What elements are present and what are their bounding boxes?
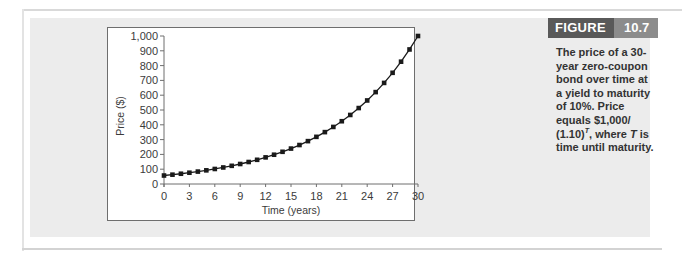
data-point: [204, 168, 209, 173]
y-tick-label: 800: [140, 60, 158, 72]
data-point: [297, 143, 302, 148]
figure-number: 10.7: [614, 18, 658, 38]
series-line-bond-price: [164, 36, 418, 176]
x-tick-label: 21: [336, 190, 348, 202]
data-point: [272, 152, 277, 157]
y-tick-label: 1,000: [130, 30, 158, 42]
data-point: [289, 146, 294, 151]
figure-label: FIGURE: [548, 18, 614, 38]
y-tick-label: 700: [140, 74, 158, 86]
x-tick-label: 30: [412, 190, 424, 202]
y-tick-label: 500: [140, 104, 158, 116]
data-point: [390, 71, 395, 76]
data-point: [323, 130, 328, 135]
y-tick-label: 100: [140, 163, 158, 175]
data-point: [306, 139, 311, 144]
caption-text: The price of a 30-year zero-coupon bond …: [556, 46, 650, 126]
caption-after-exponent: , where: [589, 128, 630, 140]
data-point: [229, 164, 234, 169]
data-point: [196, 169, 201, 174]
x-tick-label: 24: [361, 190, 373, 202]
data-point: [407, 47, 412, 52]
data-point: [255, 158, 260, 163]
y-tick-label: 300: [140, 134, 158, 146]
x-tick-label: 15: [285, 190, 297, 202]
data-point: [162, 173, 167, 178]
y-tick-label: 200: [140, 148, 158, 160]
data-point: [170, 172, 175, 177]
x-tick-label: 18: [310, 190, 322, 202]
data-point: [331, 125, 336, 130]
data-point: [382, 81, 387, 86]
markers: [162, 34, 421, 178]
data-point: [356, 106, 361, 111]
figure-caption: The price of a 30-year zero-coupon bond …: [556, 46, 656, 155]
data-point: [246, 160, 251, 165]
data-point: [348, 113, 353, 118]
data-point: [314, 135, 319, 140]
axes: [164, 36, 418, 187]
x-axis-title: Time (years): [262, 204, 321, 216]
y-tick-label: 900: [140, 45, 158, 57]
data-point: [263, 155, 268, 160]
caption-variable: T: [630, 128, 637, 140]
data-point: [213, 167, 218, 172]
x-tick-label: 12: [259, 190, 271, 202]
data-point: [365, 98, 370, 103]
data-point: [221, 165, 226, 170]
data-point: [416, 34, 421, 39]
data-point: [340, 119, 345, 124]
data-point: [280, 149, 285, 154]
data-point: [373, 90, 378, 95]
data-point: [238, 162, 243, 167]
y-tick-label: 400: [140, 119, 158, 131]
data-point: [187, 170, 192, 175]
x-tick-label: 9: [237, 190, 243, 202]
x-tick-label: 0: [161, 190, 167, 202]
figure-header: FIGURE 10.7: [548, 18, 658, 38]
y-tick-label: 0: [152, 178, 158, 190]
x-tick-label: 3: [186, 190, 192, 202]
y-axis-title: Price ($): [114, 96, 126, 136]
data-point: [179, 171, 184, 176]
x-tick-label: 27: [386, 190, 398, 202]
caption-formula-base: (1.10): [556, 128, 585, 140]
x-tick-label: 6: [212, 190, 218, 202]
data-point: [399, 59, 404, 64]
y-tick-label: 600: [140, 89, 158, 101]
